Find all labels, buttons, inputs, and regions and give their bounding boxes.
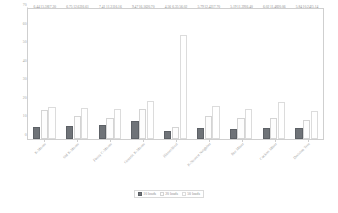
bar-slot: 12.42	[205, 9, 212, 139]
bar[interactable]: 4.56	[164, 131, 171, 139]
bar[interactable]: 17.30	[48, 107, 55, 139]
bar[interactable]: 6.75	[66, 126, 73, 139]
legend-item[interactable]: 10 loads	[138, 192, 156, 196]
bar-value-label: 20.70	[146, 6, 154, 10]
bar-group: 9.4716.1620.70	[126, 9, 159, 139]
legend-swatch	[182, 192, 186, 195]
bar[interactable]: 15.38	[41, 110, 48, 139]
x-axis-label-cell: Std K-Means	[60, 141, 93, 183]
bar[interactable]: 10.24	[303, 120, 310, 139]
bar-slot: 16.16	[139, 9, 146, 139]
bar-value-label: 16.16	[139, 6, 147, 10]
y-axis-tick-label: 10	[23, 114, 27, 118]
bar-slot: 16.16	[114, 9, 121, 139]
y-axis-tick-label: 0	[25, 133, 27, 137]
legend-label: 20 loads	[165, 192, 178, 196]
bar-slot: 11.48	[270, 9, 277, 139]
bar[interactable]: 16.16	[139, 109, 146, 139]
y-axis-tick-label: 20	[23, 96, 27, 100]
bar-value-label: 17.70	[212, 6, 220, 10]
x-axis-labels: K-MeansStd K-MeansFuzzy C-MeansGenetic K…	[27, 141, 324, 183]
bar-group: 6.4415.3817.30	[28, 9, 61, 139]
x-axis-tick-label: Decision Tree	[292, 142, 310, 160]
bar-group: 7.4111.3116.16	[94, 9, 127, 139]
bar[interactable]: 20.70	[147, 101, 154, 139]
bar[interactable]: 16.16	[114, 109, 121, 139]
bar-value-label: 15.14	[310, 6, 318, 10]
bar-value-label: 16.16	[114, 6, 122, 10]
bar[interactable]: 11.39	[237, 118, 244, 139]
bar-value-label: 5.19	[230, 6, 236, 10]
bar[interactable]: 6.44	[33, 127, 40, 139]
legend-item[interactable]: 50 loads	[182, 192, 200, 196]
x-axis-label-cell: Cuckoo Miner	[258, 141, 291, 183]
bar-group: 5.7912.4217.70	[192, 9, 225, 139]
legend-item[interactable]: 20 loads	[160, 192, 178, 196]
bar[interactable]: 5.79	[197, 128, 204, 139]
bar-group: 6.0211.4820.06	[257, 9, 290, 139]
bar-slot: 6.44	[33, 9, 40, 139]
chart-legend: 10 loads20 loads50 loads	[0, 190, 338, 198]
x-axis-tick-label: Std K-Means	[62, 142, 79, 159]
bar-value-label: 4.56	[165, 6, 171, 10]
bar-slot: 5.84	[295, 9, 302, 139]
bar-value-label: 11.31	[106, 6, 114, 10]
bar-slot: 9.47	[131, 9, 138, 139]
bar-slot: 20.70	[147, 9, 154, 139]
legend-label: 10 loads	[143, 192, 156, 196]
bar[interactable]: 6.35	[172, 127, 179, 139]
x-axis-tick-label: Cuckoo Miner	[258, 142, 277, 161]
bar[interactable]: 7.41	[99, 125, 106, 139]
y-axis-tick-label: 70	[23, 3, 27, 7]
bar-value-label: 10.24	[303, 6, 311, 10]
x-axis-tick-label: Bee Miner	[230, 142, 245, 157]
bar-slot: 17.70	[212, 9, 219, 139]
bar-value-label: 9.47	[132, 6, 138, 10]
bar-group: 5.8410.2415.14	[290, 9, 323, 139]
bar-groups: 6.4415.3817.306.7512.6216.617.4111.3116.…	[28, 9, 323, 139]
bar-value-label: 56.02	[179, 6, 187, 10]
bar-value-label: 16.61	[81, 6, 89, 10]
bar[interactable]: 16.61	[81, 108, 88, 139]
bar[interactable]: 16.40	[245, 109, 252, 139]
bar-slot: 16.61	[81, 9, 88, 139]
bar-value-label: 11.48	[270, 6, 278, 10]
x-axis-label-cell: K-Nearest Neighbor	[192, 141, 225, 183]
bar-value-label: 15.38	[40, 6, 48, 10]
bar-slot: 6.75	[66, 9, 73, 139]
bar[interactable]: 12.42	[205, 116, 212, 139]
bar-value-label: 6.75	[66, 6, 72, 10]
bar[interactable]: 11.31	[106, 118, 113, 139]
bar-value-label: 6.02	[263, 6, 269, 10]
bar[interactable]: 9.47	[131, 121, 138, 139]
bar[interactable]: 56.02	[180, 35, 187, 139]
bar-slot: 56.02	[180, 9, 187, 139]
bar-value-label: 12.42	[204, 6, 212, 10]
bar[interactable]: 6.02	[263, 128, 270, 139]
y-axis-tick-label: 30	[23, 77, 27, 81]
x-axis-label-cell: K-Means	[27, 141, 60, 183]
bar-value-label: 20.06	[278, 6, 286, 10]
legend-swatch	[160, 192, 164, 195]
bar[interactable]: 12.62	[74, 116, 81, 139]
bar-slot: 6.02	[263, 9, 270, 139]
bar-value-label: 11.39	[237, 6, 245, 10]
bar-value-label: 5.79	[197, 6, 203, 10]
bar[interactable]: 5.19	[230, 129, 237, 139]
bar[interactable]: 17.70	[212, 106, 219, 139]
bar-slot: 7.41	[99, 9, 106, 139]
bar-group: 6.7512.6216.61	[61, 9, 94, 139]
x-axis-tick-label: Fuzzy C-Means	[92, 142, 112, 162]
y-axis-tick-label: 60	[23, 22, 27, 26]
plot-area: 010203040506070 6.4415.3817.306.7512.621…	[27, 8, 324, 140]
bar[interactable]: 5.84	[295, 128, 302, 139]
x-axis-tick-label: K-Means	[33, 142, 46, 155]
bar[interactable]: 20.06	[278, 102, 285, 139]
bar-group: 5.1911.3916.40	[225, 9, 258, 139]
x-axis-label-cell: Genetic K-Means	[126, 141, 159, 183]
bar-slot: 12.62	[74, 9, 81, 139]
bar-slot: 11.39	[237, 9, 244, 139]
y-axis-tick-label: 40	[23, 59, 27, 63]
bar[interactable]: 15.14	[311, 111, 318, 139]
bar[interactable]: 11.48	[270, 118, 277, 139]
